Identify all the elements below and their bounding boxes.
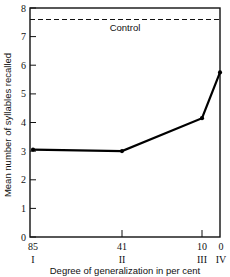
group-label-iii: III [197, 254, 207, 265]
data-point-10 [200, 116, 204, 120]
y-tick-label-4: 4 [21, 117, 26, 128]
y-axis-ticks [30, 8, 36, 237]
group-label-iv: IV [216, 254, 227, 265]
chart-plot: 8 7 6 5 4 3 2 1 0 85 41 10 0 I II III IV… [0, 0, 230, 277]
x-tick-label-41: 41 [117, 241, 127, 252]
y-tick-label-2: 2 [21, 174, 26, 185]
x-tick-label-0: 0 [219, 241, 224, 252]
x-tick-label-10: 10 [197, 241, 207, 252]
data-point-0 [218, 70, 222, 74]
data-point-85 [31, 148, 35, 152]
data-markers [31, 70, 222, 153]
y-tick-label-1: 1 [21, 203, 26, 214]
y-tick-label-5: 5 [21, 88, 26, 99]
x-axis-ticks [122, 230, 202, 237]
y-tick-label-8: 8 [21, 3, 26, 14]
control-line-label: Control [110, 22, 141, 33]
group-label-i: I [31, 254, 34, 265]
group-label-ii: II [119, 254, 126, 265]
chart-container: 8 7 6 5 4 3 2 1 0 85 41 10 0 I II III IV… [0, 0, 230, 277]
y-tick-label-6: 6 [21, 60, 26, 71]
y-tick-label-3: 3 [21, 146, 26, 157]
y-tick-label-0: 0 [21, 232, 26, 243]
x-axis-title: Degree of generalization in per cent [50, 265, 201, 276]
data-point-41 [120, 149, 124, 153]
y-axis-title: Mean number of syllables recalled [2, 53, 13, 197]
data-series-line [33, 72, 220, 151]
x-tick-label-85: 85 [28, 241, 38, 252]
y-tick-label-7: 7 [21, 31, 26, 42]
